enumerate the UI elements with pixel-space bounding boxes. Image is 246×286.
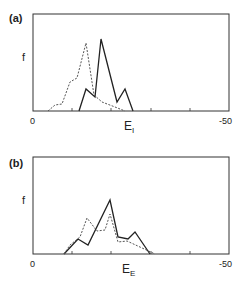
panel-a-xlabel-main: E	[124, 119, 132, 133]
panel-a-dashed-line	[48, 43, 125, 111]
chart-canvas	[0, 0, 246, 286]
panel-b-xlabel-sub: E	[130, 269, 135, 278]
panel-a-label: (a)	[9, 12, 22, 24]
panel-a-ylabel: f	[22, 51, 25, 63]
panel-b-xtick-50: -50	[219, 259, 232, 269]
panel-b-xlabel: EE	[122, 262, 135, 278]
panel-a-xlabel-sub: I	[132, 126, 134, 135]
panel-b-dashed-line	[64, 214, 155, 254]
panel-a-xtick-0: 0	[30, 116, 35, 126]
panel-a-solid-line	[79, 39, 133, 111]
panel-a-frame	[33, 14, 229, 111]
panel-a-xtick-50: -50	[219, 116, 232, 126]
panel-b-ylabel: f	[22, 194, 25, 206]
panel-b-xlabel-main: E	[122, 262, 130, 276]
panel-a-xlabel: EI	[124, 119, 134, 135]
panel-b-xtick-0: 0	[30, 259, 35, 269]
panel-b-label: (b)	[9, 157, 23, 169]
panel-b-frame	[33, 157, 229, 254]
